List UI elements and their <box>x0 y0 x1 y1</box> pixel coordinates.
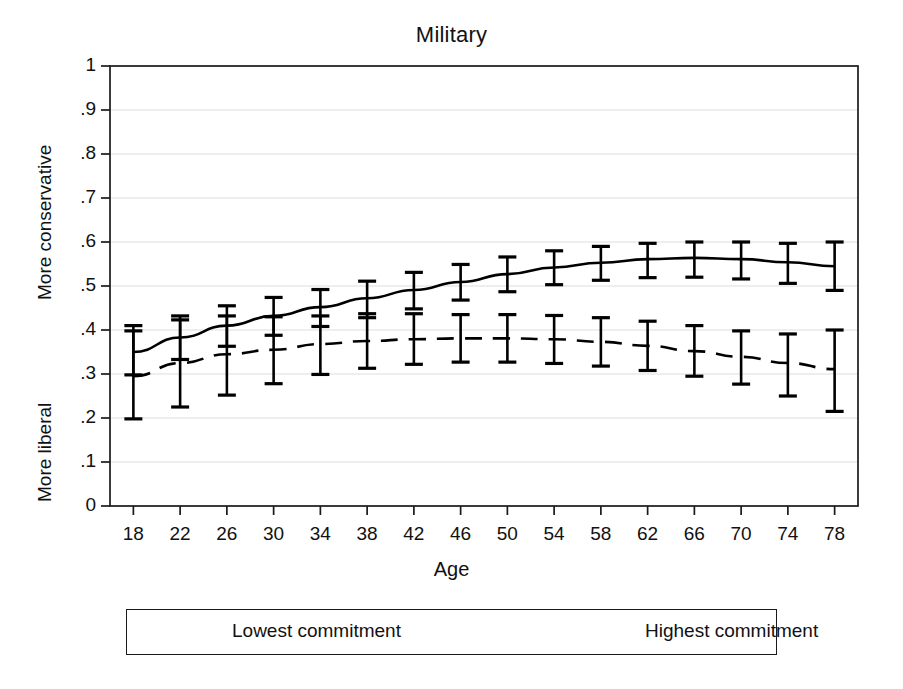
y-tick-label: .6 <box>48 230 96 252</box>
y-tick-label: .9 <box>48 98 96 120</box>
x-tick-label: 38 <box>342 523 392 545</box>
y-tick-label: .5 <box>48 274 96 296</box>
x-tick-label: 70 <box>716 523 766 545</box>
x-tick-label: 26 <box>202 523 252 545</box>
chart-title: Military <box>0 22 903 48</box>
y-tick-label: .3 <box>48 362 96 384</box>
x-axis-label: Age <box>0 558 903 581</box>
y-tick-label: .2 <box>48 406 96 428</box>
x-tick-label: 30 <box>249 523 299 545</box>
x-tick-label: 50 <box>482 523 532 545</box>
x-tick-label: 34 <box>295 523 345 545</box>
y-tick-label: .4 <box>48 318 96 340</box>
x-tick-label: 74 <box>763 523 813 545</box>
plot-area <box>0 0 903 689</box>
x-tick-label: 22 <box>155 523 205 545</box>
x-tick-label: 78 <box>810 523 860 545</box>
y-tick-label: .1 <box>48 450 96 472</box>
legend-label-lowest-commitment: Lowest commitment <box>232 620 401 642</box>
y-tick-label: 1 <box>48 54 96 76</box>
x-tick-label: 62 <box>623 523 673 545</box>
x-tick-label: 42 <box>389 523 439 545</box>
x-tick-label: 66 <box>669 523 719 545</box>
y-tick-label: .8 <box>48 142 96 164</box>
x-tick-label: 58 <box>576 523 626 545</box>
y-tick-label: 0 <box>48 494 96 516</box>
x-tick-label: 18 <box>108 523 158 545</box>
x-tick-label: 46 <box>436 523 486 545</box>
chart-figure: Military More conservative More liberal … <box>0 0 903 689</box>
x-tick-label: 54 <box>529 523 579 545</box>
y-tick-label: .7 <box>48 186 96 208</box>
legend-label-highest-commitment: Highest commitment <box>645 620 818 642</box>
